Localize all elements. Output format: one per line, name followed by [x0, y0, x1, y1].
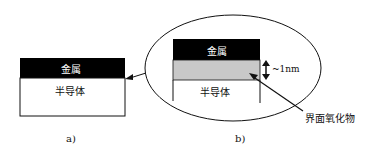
- metal-label-b: 金属: [207, 43, 227, 58]
- metal-label-a: 金属: [61, 61, 81, 76]
- pointer-arrow-head: [125, 74, 133, 80]
- semiconductor-label-a: 半导体: [55, 83, 85, 98]
- thickness-label: ~1nm: [272, 64, 300, 74]
- thickness-arrow-top: [262, 60, 270, 66]
- oxide-layer-b: [173, 60, 260, 80]
- thickness-arrow-bottom: [262, 74, 270, 80]
- diagram-canvas: [0, 0, 368, 157]
- caption-b: b): [235, 133, 245, 144]
- semiconductor-label-b: 半导体: [200, 84, 230, 99]
- oxide-label: 界面氧化物: [305, 110, 355, 125]
- caption-a: a): [66, 133, 76, 144]
